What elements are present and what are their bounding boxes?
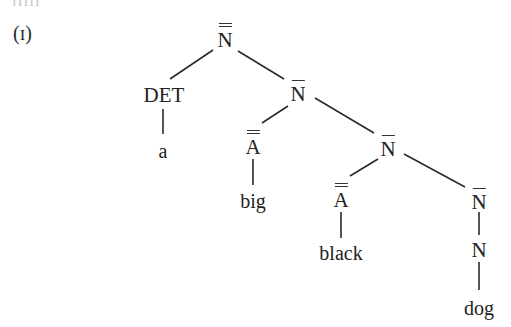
- tree-edges: [0, 0, 511, 327]
- node-n: N: [471, 240, 486, 261]
- word-a: a: [159, 141, 168, 161]
- edge-root-det: [170, 50, 213, 79]
- edge-nbar2-adj2: [350, 159, 378, 176]
- node-n-bar-2: N: [380, 139, 395, 160]
- edge-nbar1-adj1: [262, 106, 288, 123]
- word-black: black: [319, 243, 362, 263]
- node-a-double-bar-black: A: [333, 190, 348, 211]
- edge-nbar1-nbar2: [315, 98, 374, 133]
- node-n-bar-3: N: [471, 192, 486, 213]
- node-a-double-bar-big: A: [245, 137, 260, 158]
- word-big: big: [240, 191, 266, 211]
- node-det: DET: [144, 85, 185, 106]
- edge-nbar2-nbar3: [404, 154, 465, 187]
- node-root-n-double-bar: N: [217, 30, 232, 51]
- edge-root-nbar1: [238, 51, 284, 79]
- node-n-bar-1: N: [290, 84, 305, 105]
- word-dog: dog: [464, 298, 494, 318]
